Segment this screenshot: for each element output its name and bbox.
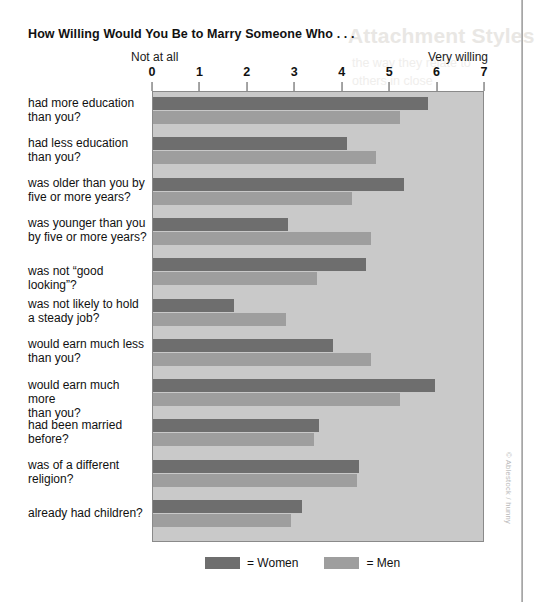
bar-men [153,272,317,285]
category-label-line: would earn much less [28,337,148,351]
x-axis-tick-label: 6 [433,66,440,79]
x-axis-tick: 7 [481,66,488,91]
ghost-heading-text: Attachment Styles [348,24,535,48]
x-axis-tick-mark [389,82,390,91]
x-axis-tick-label: 4 [338,66,345,79]
bar-women [153,97,428,110]
category-label-line: had less education [28,136,148,150]
x-axis-tick-mark [151,82,152,91]
category-label-line: was younger than you [28,216,148,230]
x-axis-tick-mark [436,82,437,91]
x-axis-tick-label: 1 [196,66,203,79]
category-label: already had children? [28,506,148,520]
category-label-line: already had children? [28,506,148,520]
category-label: was not likely to holda steady job? [28,297,148,325]
category-label-line: than you? [28,150,148,164]
x-axis-tick: 3 [291,66,298,91]
category-label-line: by five or more years? [28,230,148,244]
bar-men [153,151,376,164]
x-axis-tick-label: 7 [481,66,488,79]
bar-women [153,419,319,432]
category-label-line: a steady job? [28,311,148,325]
plot-area [152,91,484,542]
bar-men [153,514,291,527]
category-label: was not “good looking”? [28,264,148,292]
x-axis-tick: 5 [386,66,393,91]
bar-women [153,178,404,191]
chart-legend: = Women = Men [205,556,400,570]
bar-group [153,178,483,205]
category-label: had more educationthan you? [28,96,148,124]
bar-group [153,460,483,487]
category-label-line: was older than you by [28,176,148,190]
category-label-line: five or more years? [28,190,148,204]
bar-men [153,474,357,487]
x-axis-tick-mark [294,82,295,91]
category-label: was of a differentreligion? [28,458,148,486]
bar-women [153,299,234,312]
legend-item-women: = Women [205,556,298,570]
category-label-line: than you? [28,351,148,365]
image-credit: © Ablestock / hunny [504,452,513,524]
category-label-line: was not “good looking”? [28,264,148,292]
bar-men [153,433,314,446]
category-label: had less educationthan you? [28,136,148,164]
legend-item-men: = Men [324,556,400,570]
bar-group [153,137,483,164]
category-label: was older than you byfive or more years? [28,176,148,204]
bar-men [153,393,400,406]
category-label-line: would earn much more [28,378,148,406]
x-axis-tick: 6 [433,66,440,91]
x-axis-tick-label: 0 [149,66,156,79]
category-label: would earn much lessthan you? [28,337,148,365]
category-label-line: had been married [28,418,148,432]
bar-men [153,232,371,245]
bar-women [153,500,302,513]
bar-group [153,500,483,527]
bar-women [153,218,288,231]
bar-group [153,339,483,366]
x-axis: 01234567 [152,66,484,90]
category-label-line: before? [28,432,148,446]
x-axis-tick-mark [246,82,247,91]
category-label-line: religion? [28,472,148,486]
legend-label-men: = Men [366,556,400,570]
bar-women [153,339,333,352]
page-edge-rule [521,0,523,602]
bar-men [153,111,400,124]
bar-group [153,299,483,326]
legend-swatch-women-icon [205,557,240,569]
bar-group [153,419,483,446]
x-axis-tick-mark [341,82,342,91]
bar-men [153,313,286,326]
chart-page: Attachment Styles the way they relate to… [0,0,541,602]
bar-group [153,258,483,285]
category-label-line: had more education [28,96,148,110]
x-axis-tick: 4 [338,66,345,91]
bar-men [153,353,371,366]
bar-group [153,218,483,245]
bar-group [153,379,483,406]
x-axis-tick-label: 3 [291,66,298,79]
x-axis-tick: 2 [243,66,250,91]
category-label: was younger than youby five or more year… [28,216,148,244]
bar-women [153,379,435,392]
category-label: had been marriedbefore? [28,418,148,446]
bar-women [153,137,347,150]
scale-anchor-low: Not at all [131,50,178,64]
category-label-line: than you? [28,110,148,124]
x-axis-tick: 1 [196,66,203,91]
category-label-line: was not likely to hold [28,297,148,311]
x-axis-tick-mark [483,82,484,91]
bar-group [153,97,483,124]
bar-women [153,460,359,473]
x-axis-tick-label: 2 [243,66,250,79]
bar-women [153,258,366,271]
bar-men [153,192,352,205]
x-axis-tick-label: 5 [386,66,393,79]
x-axis-tick: 0 [149,66,156,91]
chart-title: How Willing Would You Be to Marry Someon… [28,27,355,41]
category-label: would earn much morethan you? [28,378,148,420]
scale-anchor-high: Very willing [428,50,488,64]
legend-swatch-men-icon [324,557,359,569]
